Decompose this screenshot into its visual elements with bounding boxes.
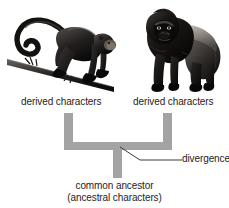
divergence-leader-line xyxy=(110,142,190,170)
spider-monkey-on-branch-illustration xyxy=(6,2,122,94)
cladogram-figure: derived characters derived characters di… xyxy=(0,0,229,208)
label-divergence: divergence xyxy=(182,153,229,165)
silverback-gorilla-illustration xyxy=(126,0,226,94)
label-common-ancestor: common ancestor (ancestral characters) xyxy=(0,180,229,204)
common-ancestor-line-1: common ancestor xyxy=(0,180,229,192)
common-ancestor-line-2: (ancestral characters) xyxy=(0,192,229,204)
